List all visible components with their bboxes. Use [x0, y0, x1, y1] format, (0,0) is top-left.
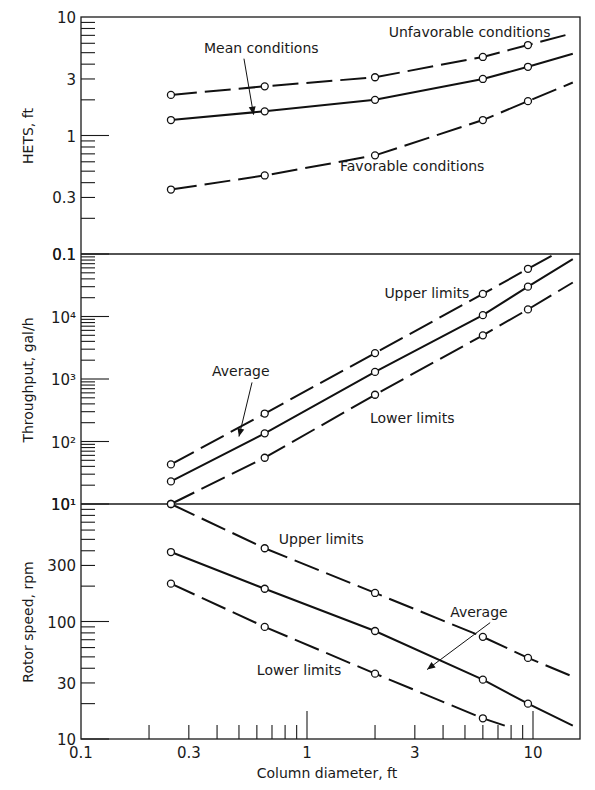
y-tick-label: 10³: [51, 371, 76, 389]
annotation-arrow: [239, 382, 252, 436]
x-axis-label: Column diameter, ft: [257, 765, 398, 781]
data-point-marker: [167, 186, 174, 193]
data-point-marker: [261, 430, 268, 437]
data-point-marker: [261, 454, 268, 461]
data-point-marker: [261, 108, 268, 115]
y-tick-label: 10: [57, 9, 76, 27]
y-tick-label: 300: [47, 557, 76, 575]
annotation-arrow: [427, 623, 490, 670]
y-tick-label: 10⁴: [51, 309, 76, 327]
data-point-marker: [372, 670, 379, 677]
y-axis-label-hets: HETS, ft: [20, 108, 36, 164]
data-point-marker: [524, 265, 531, 272]
series-line: [171, 54, 573, 120]
data-point-marker: [479, 312, 486, 319]
series-line: [171, 552, 573, 726]
data-point-marker: [372, 74, 379, 81]
data-point-marker: [479, 676, 486, 683]
data-point-marker: [372, 589, 379, 596]
data-point-marker: [261, 410, 268, 417]
y-tick-label: 100: [47, 614, 76, 632]
data-point-marker: [167, 501, 174, 508]
data-point-marker: [524, 306, 531, 313]
x-tick-label: 0.1: [69, 744, 93, 762]
annotation-label: Average: [212, 363, 270, 379]
data-point-marker: [167, 580, 174, 587]
data-point-marker: [479, 53, 486, 60]
data-point-marker: [261, 623, 268, 630]
data-point-marker: [372, 391, 379, 398]
data-point-marker: [372, 96, 379, 103]
data-point-marker: [479, 633, 486, 640]
annotation-label: Lower limits: [257, 662, 341, 678]
data-point-marker: [524, 42, 531, 49]
data-point-marker: [479, 75, 486, 82]
data-point-marker: [167, 117, 174, 124]
data-point-marker: [479, 332, 486, 339]
data-point-marker: [479, 290, 486, 297]
data-point-marker: [524, 98, 531, 105]
data-point-marker: [167, 478, 174, 485]
x-tick-label: 3: [410, 744, 420, 762]
data-point-marker: [261, 585, 268, 592]
y-tick-label: 0.3: [52, 189, 76, 207]
y-axis-label-rotor-speed: Rotor speed, rpm: [20, 561, 36, 682]
data-point-marker: [261, 83, 268, 90]
y-tick-label: 30: [57, 675, 76, 693]
axis-ticks: 0.10.3131010¹10²10³10⁴0.1103010030010¹0.…: [47, 9, 542, 762]
annotation-label: Unfavorable conditions: [389, 24, 551, 40]
data-point-marker: [167, 549, 174, 556]
annotation-label: Upper limits: [279, 531, 364, 547]
data-point-marker: [372, 350, 379, 357]
y-tick-label: 3: [66, 71, 76, 89]
annotation-label: Average: [450, 604, 508, 620]
y-tick-label: 10¹: [51, 496, 76, 514]
data-point-marker: [261, 545, 268, 552]
data-point-marker: [524, 63, 531, 70]
x-tick-label: 10: [523, 744, 542, 762]
arrowhead-icon: [427, 662, 436, 670]
y-tick-label: 1: [66, 128, 76, 146]
data-point-marker: [479, 117, 486, 124]
annotation-label: Upper limits: [384, 285, 469, 301]
y-tick-label: 10²: [51, 434, 76, 452]
data-point-marker: [524, 283, 531, 290]
annotation-label: Mean conditions: [204, 40, 319, 56]
annotation-label: Favorable conditions: [340, 158, 484, 174]
x-tick-label: 0.3: [177, 744, 201, 762]
annotation-label: Lower limits: [370, 410, 454, 426]
data-point-marker: [372, 368, 379, 375]
arrowhead-icon: [237, 428, 244, 437]
data-point-marker: [479, 715, 486, 722]
y-tick-label: 0.1: [52, 246, 76, 264]
y-axis-label-throughput: Throughput, gal/h: [20, 317, 36, 443]
data-point-marker: [261, 172, 268, 179]
data-point-marker: [372, 628, 379, 635]
series-line: [171, 254, 555, 464]
data-point-marker: [167, 91, 174, 98]
chart: 0.10.3131010¹10²10³10⁴0.1103010030010¹0.…: [0, 0, 595, 790]
x-tick-label: 1: [302, 744, 312, 762]
data-point-marker: [524, 700, 531, 707]
data-point-marker: [167, 461, 174, 468]
data-point-marker: [524, 654, 531, 661]
